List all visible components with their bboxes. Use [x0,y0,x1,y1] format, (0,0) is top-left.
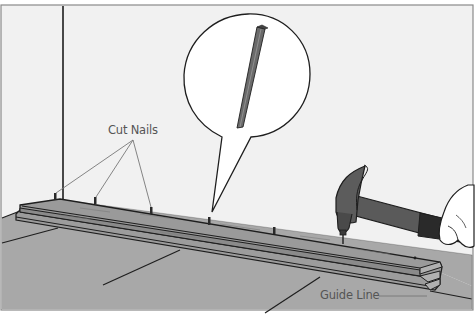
guide-line-label: Guide Line [320,288,379,302]
cut-nail [273,227,276,234]
cut-nail [94,197,97,204]
cut-nails-label: Cut Nails [108,123,158,137]
illustration-canvas [0,0,476,317]
flooring-illustration: Cut Nails Guide Line [0,0,476,317]
cut-nail [150,207,153,214]
cut-nail [54,193,57,200]
cut-nail [208,217,211,225]
